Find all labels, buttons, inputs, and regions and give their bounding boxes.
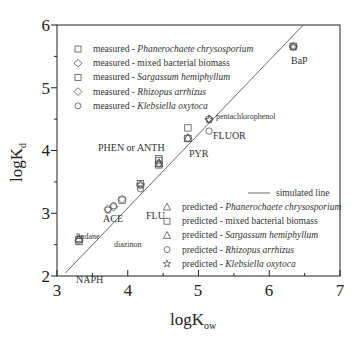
y-tick-2: 2 (42, 267, 51, 286)
data-point (185, 125, 191, 131)
label-pentachlorophenol: pentachlorophenol (216, 112, 276, 121)
legend-item: predicted - mixed bacterial biomass (182, 216, 318, 226)
legend-simulated-line: simulated line (248, 188, 330, 198)
circle-marker-icon (164, 247, 170, 253)
triangle-marker-icon (163, 232, 170, 239)
label-fluor: FLUOR (213, 130, 246, 141)
circle-marker-icon (75, 103, 81, 109)
legend-item: measured - Rhizopus arrhizus (93, 87, 206, 97)
x-tick-6: 6 (265, 281, 274, 300)
label-phen-anth: PHEN or ANTH (98, 142, 165, 153)
label-naph: NAPH (76, 274, 103, 285)
x-axis-title: logKow (170, 310, 217, 331)
label-bap: BaP (291, 55, 308, 66)
diamond-marker-icon (74, 59, 82, 67)
x-tick-3: 3 (53, 281, 62, 300)
data-point (206, 128, 212, 134)
legend-item: measured - Klebsiella oxytoca (93, 101, 208, 111)
y-tick-5: 5 (42, 79, 51, 98)
legend-item: predicted - Sargassum hemiphyllum (182, 230, 318, 240)
y-tick-3: 3 (42, 204, 51, 223)
legend-item: measured - mixed bacterial biomass (93, 58, 230, 68)
y-axis-title: logKd (7, 143, 28, 182)
legend-item: measured - Sargassum hemiphyllum (93, 72, 230, 82)
x-tick-4: 4 (124, 281, 133, 300)
label-diazinon: diazinon (114, 240, 142, 249)
y-tick-4: 4 (42, 141, 51, 160)
y-tick-6: 6 (42, 16, 51, 35)
legend-item: predicted - Phanerochaete chrysosporium (182, 202, 341, 212)
data-point (184, 134, 192, 141)
x-tick-5: 5 (194, 281, 203, 300)
legend-line-label: simulated line (276, 188, 330, 198)
square-marker-icon (75, 46, 81, 52)
legend-item: predicted - Rhizopus arrhizus (182, 245, 294, 255)
diamond-marker-icon (74, 88, 82, 96)
triangle-marker-icon (163, 203, 170, 210)
chart: 3 4 5 6 7 2 3 4 5 6 logKow logKd NAPH li… (0, 0, 355, 346)
square-marker-icon (75, 74, 81, 80)
svg-text:logKd: logKd (7, 143, 28, 182)
label-pyr: PYR (189, 148, 209, 159)
legend-item: predicted - Klebsiella oxytoca (182, 259, 296, 269)
x-tick-7: 7 (336, 281, 345, 300)
star-marker-icon (163, 260, 170, 267)
label-ace: ACE (103, 213, 123, 224)
label-flu: FLU (146, 210, 166, 221)
data-point (110, 203, 116, 209)
label-lindane: lindane (76, 232, 100, 241)
legend-predicted: predicted - Phanerochaete chrysosporiump… (163, 202, 341, 269)
legend-measured: measured - Phanerochaete chrysosporiumme… (74, 44, 253, 111)
legend-item: measured - Phanerochaete chrysosporium (93, 44, 253, 54)
